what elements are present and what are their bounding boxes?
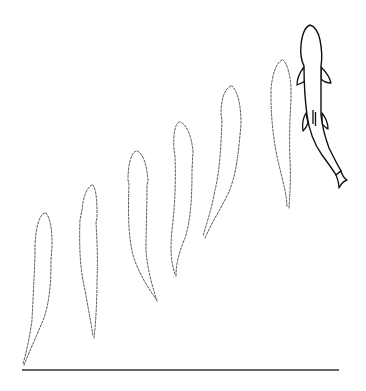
ghost-fish-5: [203, 86, 241, 238]
solid-fish-body: [301, 25, 341, 175]
fish-sequence-figure: fish swimming trajectory (successive pos…: [0, 0, 366, 391]
ghost-fish-3: [128, 151, 157, 301]
diagram-canvas: [0, 0, 366, 391]
ghost-fish-4: [171, 122, 193, 276]
ghost-fish-1: [23, 213, 52, 365]
ghost-fish-6: [271, 60, 291, 208]
solid-fish-tail-fin: [336, 171, 347, 188]
ghost-fish-2: [80, 185, 98, 338]
solid-fish-right-pectoral-fin: [321, 67, 331, 83]
